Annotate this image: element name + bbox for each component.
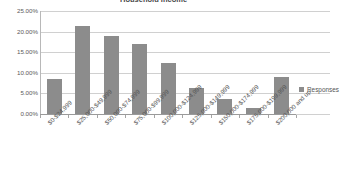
x-axis-tick (154, 115, 155, 118)
x-axis-tick-label: $0-$24,999 (46, 99, 73, 126)
x-axis-tick (239, 115, 240, 118)
x-axis-tick (40, 115, 41, 118)
x-axis-tick (268, 115, 269, 118)
x-axis-tick (296, 115, 297, 118)
legend-swatch-responses (299, 87, 304, 92)
x-axis-tick (97, 115, 98, 118)
chart-legend: Responses (299, 86, 339, 93)
x-axis-tick (68, 115, 69, 118)
bar-chart: Household Income 0.00%5.00%10.00%15.00%2… (0, 0, 351, 184)
x-axis-tick (182, 115, 183, 118)
x-axis-tick (125, 115, 126, 118)
legend-label-responses: Responses (307, 86, 339, 93)
x-axis-tick (211, 115, 212, 118)
